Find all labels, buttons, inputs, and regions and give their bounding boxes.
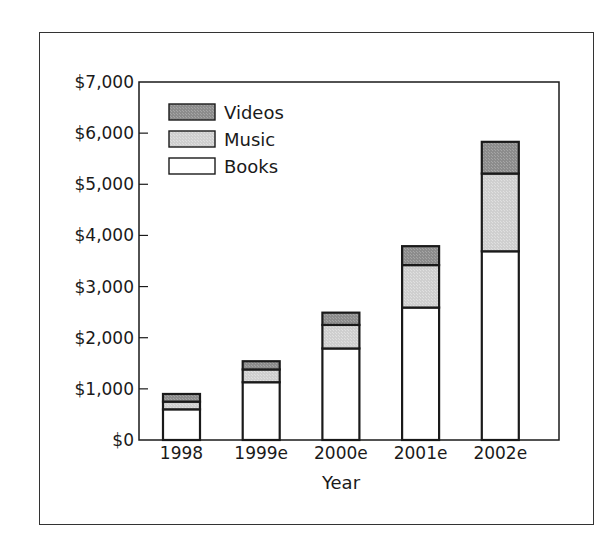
bar-stack-2002e <box>482 142 519 440</box>
legend-label-books: Books <box>224 156 278 177</box>
bar-segment-books <box>482 251 519 440</box>
legend-swatch-books <box>169 158 215 174</box>
bar-segment-music <box>243 369 280 382</box>
bar-segment-books <box>402 308 439 440</box>
legend: VideosMusicBooks <box>169 102 284 177</box>
x-axis: 19981999e2000e2001e2002e <box>160 443 527 463</box>
bars <box>163 142 519 440</box>
x-tick-label: 1998 <box>160 443 203 463</box>
bar-stack-2000e <box>322 313 359 440</box>
stacked-bar-chart: $0$1,000$2,000$3,000$4,000$5,000$6,000$7… <box>0 0 616 555</box>
bar-segment-music <box>482 174 519 252</box>
x-tick-label: 1999e <box>234 443 288 463</box>
y-tick-label: $4,000 <box>75 225 134 245</box>
y-tick-label: $0 <box>112 430 134 450</box>
legend-swatch-videos <box>169 104 215 120</box>
bar-segment-videos <box>322 313 359 325</box>
bar-segment-books <box>322 348 359 440</box>
x-tick-label: 2000e <box>314 443 368 463</box>
bar-segment-books <box>163 409 200 440</box>
y-tick-label: $5,000 <box>75 174 134 194</box>
bar-segment-videos <box>402 246 439 265</box>
bar-stack-2001e <box>402 246 439 440</box>
x-axis-title: Year <box>321 472 361 493</box>
bar-segment-videos <box>243 361 280 369</box>
y-tick-label: $3,000 <box>75 277 134 297</box>
legend-label-music: Music <box>224 129 275 150</box>
y-axis: $0$1,000$2,000$3,000$4,000$5,000$6,000$7… <box>75 72 148 450</box>
y-tick-label: $6,000 <box>75 123 134 143</box>
y-tick-label: $7,000 <box>75 72 134 92</box>
bar-stack-1999e <box>243 361 280 440</box>
bar-segment-music <box>163 402 200 410</box>
bar-segment-music <box>322 325 359 349</box>
x-tick-label: 2002e <box>473 443 527 463</box>
bar-segment-music <box>402 265 439 307</box>
y-tick-label: $1,000 <box>75 379 134 399</box>
x-tick-label: 2001e <box>394 443 448 463</box>
bar-stack-1998 <box>163 394 200 440</box>
bar-segment-videos <box>482 142 519 174</box>
legend-label-videos: Videos <box>224 102 284 123</box>
legend-swatch-music <box>169 131 215 147</box>
bar-segment-books <box>243 382 280 440</box>
bar-segment-videos <box>163 394 200 402</box>
y-tick-label: $2,000 <box>75 328 134 348</box>
